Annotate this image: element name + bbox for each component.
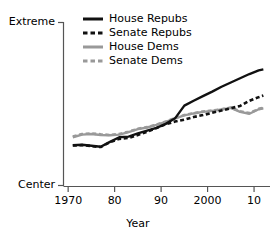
legend-item[interactable]: House Repubs: [82, 12, 212, 26]
x-axis-tick-label: 90: [136, 195, 186, 207]
y-axis-label-center: Center: [2, 179, 55, 191]
legend-item-label: Senate Dems: [109, 55, 183, 67]
legend-item[interactable]: Senate Dems: [82, 54, 212, 68]
legend-item[interactable]: Senate Repubs: [82, 26, 212, 40]
legend-item-label: House Dems: [109, 41, 179, 53]
legend-line-sample-icon: [82, 12, 104, 26]
x-axis-tick-label: 80: [90, 195, 140, 207]
legend-item-label: Senate Repubs: [109, 27, 192, 39]
legend-item-label: House Repubs: [109, 13, 188, 25]
chart-legend: House RepubsSenate RepubsHouse DemsSenat…: [82, 12, 212, 68]
chart-container: Extreme Center 19708090200010 Year House…: [0, 0, 276, 238]
x-axis-tick-label: 1970: [43, 195, 93, 207]
x-axis-title: Year: [0, 218, 276, 230]
x-axis-tick-label: 10: [229, 195, 276, 207]
x-tick-marks: [68, 187, 254, 193]
legend-item[interactable]: House Dems: [82, 40, 212, 54]
legend-line-sample-icon: [82, 54, 104, 68]
x-axis-tick-label: 2000: [183, 195, 233, 207]
legend-line-sample-icon: [82, 26, 104, 40]
y-axis-label-extreme: Extreme: [2, 16, 55, 28]
legend-line-sample-icon: [82, 40, 104, 54]
data-series-group: [73, 69, 264, 147]
